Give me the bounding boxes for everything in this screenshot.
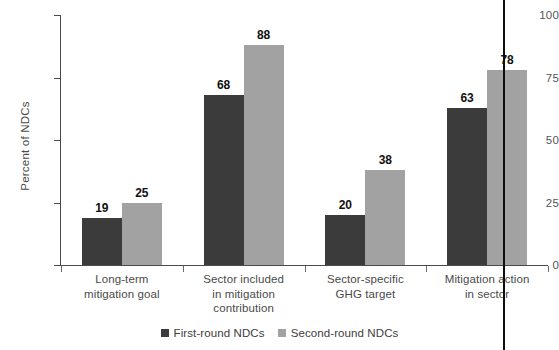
x-category-label-line: GHG target [300, 287, 430, 302]
y-axis-title: Percent of NDCs [19, 76, 31, 216]
x-category-label-line: Long-term [57, 272, 187, 287]
page-fold-line [503, 0, 505, 350]
bar-second-round [365, 170, 405, 265]
bar-value-label: 19 [95, 201, 108, 215]
bar-first-round [325, 215, 365, 265]
bar-value-label: 63 [460, 91, 473, 105]
bar-value-label: 68 [217, 78, 230, 92]
legend-swatch-icon-first-round [161, 329, 169, 337]
y-tick-mark [54, 15, 61, 16]
bar-value-label: 38 [379, 153, 392, 167]
x-category-label-line: Mitigation action [422, 272, 552, 287]
x-category-label-line: Sector-specific [300, 272, 430, 287]
bar-first-round [447, 108, 487, 266]
x-category-label-line: contribution [179, 301, 309, 316]
bar-first-round [82, 218, 122, 266]
bar-second-round [244, 45, 284, 265]
bar-chart-figure: Percent of NDCs 0255075100 1925688820386… [0, 0, 559, 350]
legend-entry-first-round[interactable]: First-round NDCs [161, 327, 265, 339]
legend-label-second-round: Second-round NDCs [291, 327, 399, 339]
y-tick-mark [54, 78, 61, 79]
bar-value-label: 25 [135, 186, 148, 200]
bar-value-label: 88 [257, 28, 270, 42]
y-tick-mark [54, 140, 61, 141]
chart-legend: First-round NDCs Second-round NDCs [0, 327, 559, 339]
x-category-label-line: in sector [422, 287, 552, 302]
x-category-label-line: mitigation goal [57, 287, 187, 302]
legend-swatch-icon-second-round [278, 329, 286, 337]
x-category-label-line: in mitigation [179, 287, 309, 302]
x-category-label: Sector includedin mitigationcontribution [179, 272, 309, 316]
bar-value-label: 20 [339, 198, 352, 212]
y-tick-mark [54, 265, 61, 266]
x-category-label: Sector-specificGHG target [300, 272, 430, 301]
legend-label-first-round: First-round NDCs [174, 327, 265, 339]
y-tick-mark [54, 203, 61, 204]
bar-second-round [487, 70, 527, 265]
legend-entry-second-round[interactable]: Second-round NDCs [278, 327, 399, 339]
bar-second-round [122, 203, 162, 266]
x-category-label-line: Sector included [179, 272, 309, 287]
x-category-label: Mitigation actionin sector [422, 272, 552, 301]
plot-area: 1925688820386378 [61, 15, 548, 265]
bar-first-round [204, 95, 244, 265]
x-category-label: Long-termmitigation goal [57, 272, 187, 301]
